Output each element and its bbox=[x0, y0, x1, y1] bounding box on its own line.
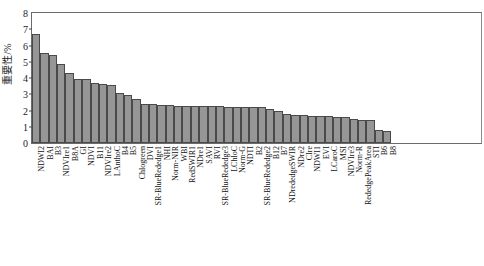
y-axis-tick-mark bbox=[29, 29, 32, 30]
y-axis-tick-mark bbox=[29, 94, 32, 95]
bar bbox=[350, 119, 358, 143]
bar bbox=[274, 111, 282, 143]
bar bbox=[341, 117, 349, 143]
bar bbox=[149, 104, 157, 143]
bar bbox=[57, 64, 65, 143]
y-axis-tick-mark bbox=[29, 110, 32, 111]
bar bbox=[308, 116, 316, 143]
bar bbox=[40, 53, 48, 143]
x-axis-tick-label: LCaroC bbox=[331, 146, 339, 172]
bar bbox=[124, 95, 132, 143]
bar bbox=[91, 83, 99, 143]
bar bbox=[258, 107, 266, 143]
bar bbox=[233, 107, 241, 143]
y-axis-tick-mark bbox=[29, 126, 32, 127]
y-axis-tick-label: 8 bbox=[23, 8, 32, 19]
bar bbox=[74, 79, 82, 144]
bar bbox=[325, 116, 333, 143]
y-axis-tick-mark bbox=[29, 78, 32, 79]
bar bbox=[99, 84, 107, 143]
bar bbox=[383, 131, 391, 143]
bar bbox=[107, 85, 115, 144]
y-axis-tick-mark bbox=[29, 45, 32, 46]
bar bbox=[208, 106, 216, 143]
x-axis-tick-label: NDVIre2 bbox=[105, 146, 113, 176]
bar bbox=[316, 116, 324, 143]
bar bbox=[65, 73, 73, 143]
y-axis-title: 重要性/% bbox=[0, 14, 13, 114]
bar bbox=[174, 106, 182, 143]
bar bbox=[49, 55, 57, 143]
bar bbox=[375, 130, 383, 143]
bar bbox=[266, 109, 274, 143]
x-axis-tick-label: Norm-NIR bbox=[172, 146, 180, 181]
bar bbox=[82, 79, 90, 143]
bar bbox=[358, 120, 366, 143]
plot-area: 012345678 bbox=[31, 12, 482, 144]
bar bbox=[333, 117, 341, 143]
bar-series bbox=[32, 13, 392, 143]
bar bbox=[116, 93, 124, 143]
bar bbox=[199, 106, 207, 143]
bar bbox=[191, 106, 199, 143]
bar bbox=[366, 120, 374, 143]
bar bbox=[166, 105, 174, 143]
bar bbox=[141, 104, 149, 143]
x-axis-tick-label: B8 bbox=[390, 146, 398, 155]
y-axis-tick-mark bbox=[29, 61, 32, 62]
bar bbox=[157, 105, 165, 143]
bar bbox=[132, 99, 140, 143]
bar bbox=[216, 106, 224, 143]
bar bbox=[249, 107, 257, 143]
bar bbox=[283, 114, 291, 143]
bar bbox=[32, 34, 40, 143]
bar bbox=[300, 115, 308, 143]
feature-importance-bar-chart: 重要性/% 012345678 NDWI2BAIB3NDVIre1B8AGIND… bbox=[0, 0, 484, 266]
x-axis-tick-label: NDWI2 bbox=[38, 146, 46, 172]
y-axis-tick-label: 0 bbox=[23, 138, 32, 149]
bar bbox=[182, 106, 190, 143]
bar bbox=[241, 107, 249, 143]
bar bbox=[224, 107, 232, 143]
bar bbox=[291, 115, 299, 143]
